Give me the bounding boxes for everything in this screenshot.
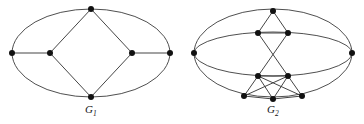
figure-g2: G2 <box>182 0 364 124</box>
g1-node-inner-left <box>47 50 53 56</box>
g2-straight-edges <box>244 11 302 99</box>
g1-edge-arc-top <box>12 9 170 53</box>
caption-g2: G2 <box>182 103 364 118</box>
g2-edge-top-upperright <box>273 11 288 33</box>
g2-node-bottom-center <box>270 96 276 102</box>
g1-node-right-pole <box>167 50 173 56</box>
g1-edge-bottom-innerright <box>91 53 132 97</box>
g2-node-lower-left <box>255 73 261 79</box>
g2-edge-arc-upper-inner <box>194 32 352 53</box>
g2-node-upper-left <box>255 30 261 36</box>
g2-node-right-pole <box>349 50 355 56</box>
caption-g2-letter: G <box>267 103 275 115</box>
g2-node-top <box>270 8 276 14</box>
g2-node-lower-right <box>285 73 291 79</box>
g1-straight-edges <box>12 9 170 97</box>
g1-node-left-pole <box>9 50 15 56</box>
g2-node-left-pole <box>191 50 197 56</box>
figure-page: G1 <box>0 0 364 124</box>
g1-node-inner-right <box>129 50 135 56</box>
g2-arc-edges <box>194 9 352 97</box>
figure-g1: G1 <box>0 0 182 124</box>
caption-g2-index: 2 <box>275 109 279 118</box>
caption-g1: G1 <box>0 103 182 118</box>
g2-edge-arc-lower-inner <box>194 53 352 76</box>
g1-edge-top-innerright <box>91 9 132 53</box>
g2-node-upper-right <box>285 30 291 36</box>
graph-g1-drawing <box>0 0 182 104</box>
g1-node-bottom <box>88 94 94 100</box>
g1-edge-innerleft-top <box>50 9 91 53</box>
g1-edge-arc-bottom <box>12 53 170 97</box>
g2-node-bottom-left <box>241 93 247 99</box>
caption-g1-letter: G <box>85 103 93 115</box>
graph-g2-drawing <box>182 0 364 104</box>
g1-node-top <box>88 6 94 12</box>
g2-edge-arc-outer-top <box>194 9 352 53</box>
g1-edge-innerleft-bottom <box>50 53 91 97</box>
g2-node-bottom-right <box>299 93 305 99</box>
g2-edge-top-upperleft <box>258 11 273 33</box>
g2-edge-arc-outer-bottom <box>194 53 352 97</box>
caption-g1-index: 1 <box>93 109 97 118</box>
